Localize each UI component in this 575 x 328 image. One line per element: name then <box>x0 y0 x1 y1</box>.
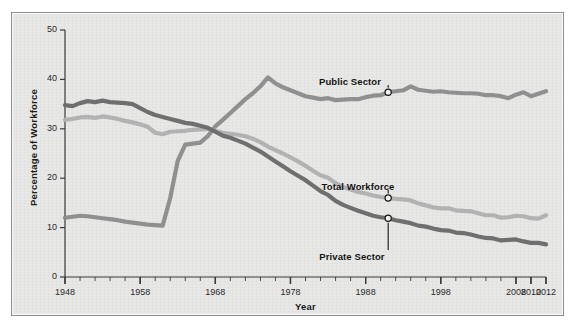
x-tick-label: 1948 <box>45 287 85 297</box>
annotation-marker-public-sector <box>385 89 391 95</box>
y-tick-label: 30 <box>31 123 57 133</box>
chart-paper-panel: Percentage of Workforce Year 01020304050… <box>11 12 564 316</box>
x-tick-label: 2012 <box>526 287 566 297</box>
x-tick-label: 1998 <box>421 287 461 297</box>
annotation-marker-private-sector <box>385 215 391 221</box>
y-axis-title: Percentage of Workforce <box>28 89 39 206</box>
y-tick-label: 50 <box>31 24 57 34</box>
chart-figure: Percentage of Workforce Year 01020304050… <box>0 0 575 328</box>
series-label-total-workforce: Total Workforce <box>322 181 395 192</box>
chart-plot-area <box>12 13 563 315</box>
y-tick-label: 0 <box>31 271 57 281</box>
series-line-public-sector <box>65 77 546 225</box>
x-axis-title: Year <box>295 301 316 312</box>
x-tick-label: 1968 <box>195 287 235 297</box>
x-tick-label: 1988 <box>346 287 386 297</box>
series-label-public-sector: Public Sector <box>319 76 381 87</box>
x-tick-label: 1958 <box>120 287 160 297</box>
series-label-private-sector: Private Sector <box>319 251 384 262</box>
annotation-marker-total-workforce <box>385 195 391 201</box>
y-tick-label: 20 <box>31 172 57 182</box>
y-tick-label: 40 <box>31 73 57 83</box>
series-line-total-workforce <box>65 116 546 218</box>
x-tick-label: 1978 <box>270 287 310 297</box>
y-tick-label: 10 <box>31 222 57 232</box>
